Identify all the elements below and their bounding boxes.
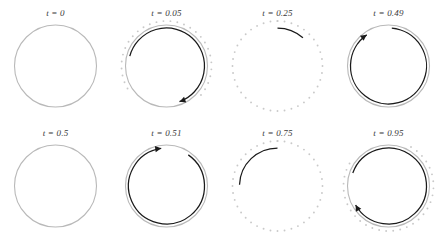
phase-dot <box>432 187 434 189</box>
phase-dot <box>359 220 361 222</box>
phase-dot <box>416 150 418 152</box>
phase-dot <box>432 180 434 182</box>
phase-dot <box>245 97 247 99</box>
phase-panel: t = 0.95 <box>333 120 444 240</box>
phase-dot <box>240 92 242 94</box>
phase-dot <box>240 159 242 161</box>
phase-dot <box>232 72 234 74</box>
phase-dot <box>169 20 171 22</box>
phase-dot <box>321 58 323 60</box>
phase-dot <box>392 230 394 232</box>
phase-arc <box>353 148 427 224</box>
phase-dot <box>321 178 323 180</box>
phase-dot <box>371 227 373 229</box>
panel-time-label: t = 0.49 <box>333 8 444 18</box>
phase-dot <box>349 163 351 165</box>
reference-circle <box>126 145 208 227</box>
phase-dot <box>156 21 158 23</box>
phase-dot <box>236 205 238 207</box>
phase-dot <box>317 205 319 207</box>
phase-panel: t = 0.51 <box>111 120 222 240</box>
phase-dot <box>124 47 126 49</box>
reference-circle <box>15 25 97 107</box>
phase-dot <box>317 45 319 47</box>
phase-dot <box>137 30 139 32</box>
phase-dot <box>410 146 412 148</box>
phase-dot <box>277 110 279 112</box>
phase-panel: t = 0 <box>0 0 111 120</box>
phase-arc <box>130 28 205 102</box>
phase-dot <box>132 35 134 37</box>
phase-dot <box>321 72 323 74</box>
phase-dot <box>200 36 202 38</box>
phase-dot <box>346 203 348 205</box>
phase-dot <box>209 75 211 77</box>
phase-dot <box>207 82 209 84</box>
phase-dot <box>232 185 234 187</box>
phase-dot <box>308 97 310 99</box>
phase-dot <box>236 165 238 167</box>
phase-circle-figure: t = 0t = 0.05t = 0.25t = 0.49t = 0.5t = … <box>0 0 445 241</box>
phase-panel: t = 0.75 <box>222 120 333 240</box>
phase-dot <box>270 110 272 112</box>
phase-dot <box>128 41 130 43</box>
reference-circle <box>126 25 208 107</box>
phase-dot <box>385 230 387 232</box>
reference-circle <box>15 145 97 227</box>
phase-dot <box>431 173 433 175</box>
phase-dot <box>121 68 123 70</box>
panel-time-label: t = 0.51 <box>111 128 222 138</box>
phase-dot <box>232 192 234 194</box>
phase-dot <box>277 140 279 142</box>
phase-dot <box>200 94 202 96</box>
phase-dot <box>399 229 401 231</box>
phase-panel: t = 0.49 <box>333 0 444 120</box>
phase-dot <box>406 226 408 228</box>
phase-dot <box>308 217 310 219</box>
phase-dot <box>234 79 236 81</box>
panel-plot-area <box>222 138 333 238</box>
phase-dot <box>121 61 123 63</box>
phase-circle-svg <box>333 138 444 238</box>
phase-dot <box>122 75 124 77</box>
phase-dot <box>303 149 305 151</box>
phase-dot <box>127 88 129 90</box>
phase-dot <box>122 54 124 56</box>
phase-dot <box>303 29 305 31</box>
phase-dot <box>124 81 126 83</box>
phase-dot <box>240 39 242 41</box>
reference-circle <box>348 25 430 107</box>
panel-plot-area <box>333 18 444 118</box>
phase-dot <box>270 141 272 143</box>
phase-dot <box>232 58 234 60</box>
phase-dot <box>303 101 305 103</box>
phase-arc <box>350 28 426 104</box>
phase-dot <box>236 85 238 87</box>
panel-plot-area <box>111 138 222 238</box>
phase-panel: t = 0.25 <box>222 0 333 120</box>
phase-dot <box>378 229 380 231</box>
phase-dot <box>317 165 319 167</box>
panel-time-label: t = 0 <box>0 8 111 18</box>
phase-circle-svg <box>222 138 333 238</box>
phase-dot <box>284 230 286 232</box>
phase-dot <box>297 225 299 227</box>
panel-time-label: t = 0.25 <box>222 8 333 18</box>
phase-arc <box>278 28 303 38</box>
phase-dot <box>319 199 321 201</box>
phase-dot <box>430 201 432 203</box>
phase-dot <box>250 221 252 223</box>
phase-dot <box>319 171 321 173</box>
phase-panel: t = 0.5 <box>0 120 111 240</box>
phase-arc <box>129 148 205 224</box>
phase-dot <box>263 228 265 230</box>
phase-circle-svg <box>0 138 111 238</box>
phase-dot <box>284 21 286 23</box>
phase-dot <box>143 26 145 28</box>
panel-time-label: t = 0.95 <box>333 128 444 138</box>
panel-plot-area <box>111 18 222 118</box>
panel-time-label: t = 0.75 <box>222 128 333 138</box>
phase-dot <box>297 25 299 27</box>
phase-dot <box>303 221 305 223</box>
phase-dot <box>210 61 212 63</box>
